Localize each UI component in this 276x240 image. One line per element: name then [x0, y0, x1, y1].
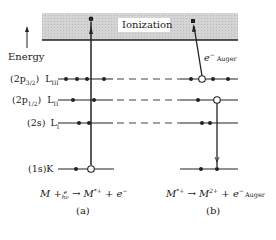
l3-hole-panel-b — [199, 76, 206, 83]
level-label-L2: (2p1/2) LII — [12, 95, 58, 107]
energy-axis-label: Energy — [8, 52, 45, 62]
energy-arrow-icon — [25, 26, 29, 48]
caption-panel-a: (a) — [76, 206, 90, 216]
level-label-L3: (2p3/2) LIII — [10, 74, 59, 86]
l2-hole-panel-b — [214, 97, 221, 104]
ionization-label: Ionization — [122, 20, 173, 30]
level-label-K: (1s)K — [28, 164, 53, 174]
equation-panel-a: M +ehν → M*+ + e− — [40, 188, 127, 200]
electrons-panel-b — [189, 77, 230, 171]
caption-panel-b: (b) — [206, 206, 220, 216]
l2-to-k-transition-arrow-icon — [215, 103, 219, 167]
level-label-L1: (2s) LI — [27, 118, 59, 130]
electrons-panel-a — [64, 77, 106, 171]
k-hole-panel-a — [88, 166, 95, 173]
auger-electron-label: e−Auger — [204, 52, 237, 63]
equation-panel-b: M*+ → M2+ + e−Auger — [166, 188, 265, 199]
